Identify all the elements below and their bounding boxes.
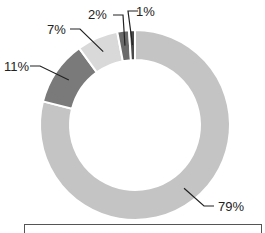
label-1pct: 1% xyxy=(136,4,155,19)
donut-chart: 79% 11% 7% 2% 1% xyxy=(0,0,265,233)
donut-slices xyxy=(40,30,230,220)
label-2pct: 2% xyxy=(88,7,107,22)
label-7pct: 7% xyxy=(47,22,66,37)
legend-box xyxy=(24,224,262,233)
label-79pct: 79% xyxy=(218,199,244,214)
label-11pct: 11% xyxy=(4,59,29,74)
